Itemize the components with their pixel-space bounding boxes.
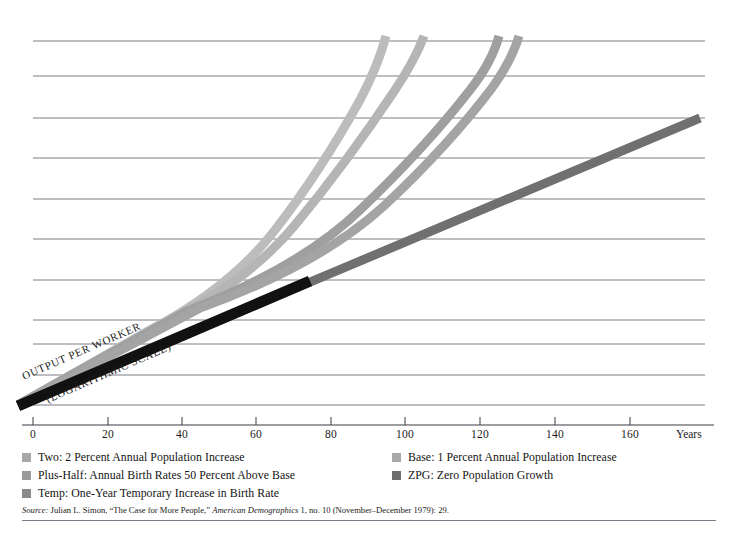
xtick-label-100: 100 bbox=[383, 428, 427, 441]
legend-swatch-two-icon bbox=[22, 453, 31, 462]
legend-label-two: Two: 2 Percent Annual Population Increas… bbox=[38, 450, 245, 465]
legend-item-two: Two: 2 Percent Annual Population Increas… bbox=[22, 450, 295, 466]
x-axis-ticks bbox=[33, 417, 630, 425]
legend-swatch-plus-half-icon bbox=[22, 471, 31, 480]
legend-item-temp: Temp: One-Year Temporary Increase in Bir… bbox=[22, 486, 295, 502]
xtick-label-160: 160 bbox=[608, 428, 652, 441]
xtick-label-40: 40 bbox=[160, 428, 204, 441]
source-note: Source: Julian L. Simon, “The Case for M… bbox=[22, 505, 716, 516]
xtick-label-120: 120 bbox=[458, 428, 502, 441]
chart-figure: OUTPUT PER WORKER (LOGARITHMIC SCALE) 0 … bbox=[0, 0, 737, 534]
legend-label-plus-half: Plus-Half: Annual Birth Rates 50 Percent… bbox=[38, 468, 295, 483]
legend-item-base: Base: 1 Percent Annual Population Increa… bbox=[392, 450, 617, 466]
source-text-part2: 1, no. 10 (November–December 1979): 29. bbox=[298, 505, 449, 515]
source-text-part1: Julian L. Simon, “The Case for More Peop… bbox=[48, 505, 212, 515]
legend-column-left: Two: 2 Percent Annual Population Increas… bbox=[22, 450, 295, 504]
x-axis-title: Years bbox=[676, 428, 702, 441]
legend-swatch-base-icon bbox=[392, 453, 401, 462]
legend-label-zpg: ZPG: Zero Population Growth bbox=[408, 468, 553, 483]
legend-swatch-zpg-icon bbox=[392, 471, 401, 480]
plot-area: OUTPUT PER WORKER (LOGARITHMIC SCALE) 0 … bbox=[0, 0, 737, 445]
xtick-label-60: 60 bbox=[234, 428, 278, 441]
legend-label-temp: Temp: One-Year Temporary Increase in Bir… bbox=[38, 486, 279, 501]
legend-item-plus-half: Plus-Half: Annual Birth Rates 50 Percent… bbox=[22, 468, 295, 484]
bottom-rule bbox=[22, 520, 716, 521]
xtick-label-0: 0 bbox=[11, 428, 55, 441]
legend-item-zpg: ZPG: Zero Population Growth bbox=[392, 468, 617, 484]
source-prefix: Source: bbox=[22, 505, 48, 515]
source-publication-title: American Demographics bbox=[212, 505, 298, 515]
legend-label-base: Base: 1 Percent Annual Population Increa… bbox=[408, 450, 617, 465]
xtick-label-140: 140 bbox=[533, 428, 577, 441]
chart-canvas: OUTPUT PER WORKER (LOGARITHMIC SCALE) bbox=[0, 0, 737, 445]
legend-swatch-temp-icon bbox=[22, 489, 31, 498]
chart-legend: Two: 2 Percent Annual Population Increas… bbox=[0, 450, 737, 498]
legend-column-right: Base: 1 Percent Annual Population Increa… bbox=[392, 450, 617, 486]
xtick-label-20: 20 bbox=[86, 428, 130, 441]
data-series-group bbox=[18, 36, 700, 406]
xtick-label-80: 80 bbox=[309, 428, 353, 441]
